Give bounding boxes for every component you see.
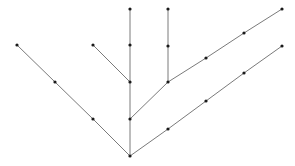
tree-edge <box>206 33 244 58</box>
tree-edge <box>130 129 168 156</box>
tree-node <box>128 7 131 10</box>
tree-node <box>166 127 169 130</box>
tree-node <box>280 44 283 47</box>
tree-nodes <box>15 7 283 157</box>
tree-node <box>166 7 169 10</box>
tree-edge <box>206 73 244 101</box>
tree-edge <box>168 58 206 82</box>
tree-node <box>128 117 131 120</box>
tree-diagram <box>0 0 295 166</box>
tree-node <box>128 43 131 46</box>
tree-node <box>91 117 94 120</box>
tree-node <box>242 71 245 74</box>
tree-edge <box>93 119 130 156</box>
tree-edge <box>55 82 93 119</box>
tree-node <box>204 56 207 59</box>
tree-edge <box>244 9 282 33</box>
tree-edge <box>168 101 206 129</box>
tree-node <box>128 80 131 83</box>
tree-node <box>91 43 94 46</box>
tree-node <box>242 31 245 34</box>
tree-node <box>128 154 131 157</box>
tree-edge <box>17 45 55 82</box>
tree-node <box>15 43 18 46</box>
tree-edge <box>244 46 282 73</box>
tree-node <box>204 99 207 102</box>
tree-edge <box>130 82 168 119</box>
tree-node <box>53 80 56 83</box>
tree-node <box>166 80 169 83</box>
tree-node <box>166 44 169 47</box>
tree-edge <box>93 45 130 82</box>
tree-node <box>280 7 283 10</box>
tree-edges <box>17 9 282 156</box>
